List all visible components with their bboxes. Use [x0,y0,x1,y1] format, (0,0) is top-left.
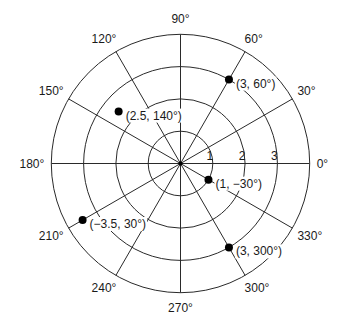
angle-label-300: 300° [245,281,270,295]
angle-label-330: 330° [297,229,322,243]
label-backgrounds [89,77,284,259]
point-1 [115,108,123,116]
angle-label-60: 60° [245,32,263,46]
ring-label-3: 3 [271,149,278,163]
angle-label-90: 90° [171,12,189,26]
ring-label-1: 1 [206,149,213,163]
ring-labels: 123 [206,149,278,163]
point-label-1: (2.5, 140°) [126,109,182,123]
angle-label-240: 240° [92,281,117,295]
ray-330deg [181,164,293,229]
origin-dot [179,162,183,166]
ray-60deg [181,52,246,164]
point-label-4: (3, 300°) [236,244,282,258]
angle-label-120: 120° [92,32,117,46]
angle-label-270: 270° [168,301,193,315]
ray-120deg [116,52,181,164]
angle-label-210: 210° [39,229,64,243]
point-4 [225,243,233,251]
angle-label-150: 150° [39,84,64,98]
angle-label-30: 30° [297,84,315,98]
point-2 [204,176,212,184]
point-labels: (3, 60°)(2.5, 140°)(1, −30°)(−3.5, 30°)(… [90,77,283,259]
ring-label-2: 2 [239,149,246,163]
point-label-2: (1, −30°) [215,177,262,191]
point-label-3: (−3.5, 30°) [90,217,147,231]
point-label-0: (3, 60°) [236,77,275,91]
angle-label-0: 0° [317,157,329,171]
point-3 [79,216,87,224]
polar-grid-diagram: 123 0°30°60°90°120°150°180°210°240°270°3… [0,0,343,330]
angle-label-180: 180° [19,157,44,171]
point-0 [225,76,233,84]
